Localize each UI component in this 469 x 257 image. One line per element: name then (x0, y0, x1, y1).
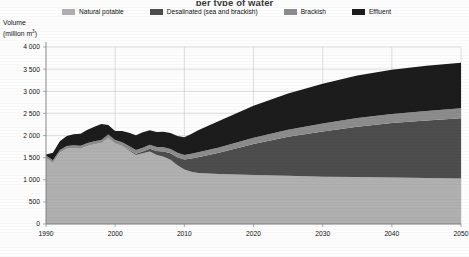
y-tick-label: 2 500 (23, 110, 40, 117)
y-tick-label: 2 000 (23, 132, 40, 139)
y-tick-label: 1 000 (23, 176, 40, 183)
x-tick-label: 2050 (454, 230, 469, 237)
y-tick-label: 3 000 (23, 88, 40, 95)
stacked-area-chart: 05001 0001 5002 0002 5003 0003 5004 000 … (0, 0, 469, 257)
y-tick-label: 1 500 (23, 154, 40, 161)
x-tick-label: 2000 (108, 230, 123, 237)
y-tick-label: 500 (29, 198, 40, 205)
y-tick-labels: 05001 0001 5002 0002 5003 0003 5004 000 (23, 43, 40, 227)
y-tick-label: 3 500 (23, 66, 40, 73)
y-tick-label: 0 (36, 220, 40, 227)
x-tick-label: 2020 (246, 230, 261, 237)
x-tick-label: 2030 (315, 230, 330, 237)
x-tick-label: 1990 (39, 230, 54, 237)
x-tick-label: 2010 (177, 230, 192, 237)
y-tick-label: 4 000 (23, 43, 40, 50)
x-tick-label: 2040 (384, 230, 399, 237)
x-tick-labels: 1990200020102020203020402050 (39, 230, 469, 237)
chart-page: per type of water Natural potable Desali… (0, 0, 469, 257)
